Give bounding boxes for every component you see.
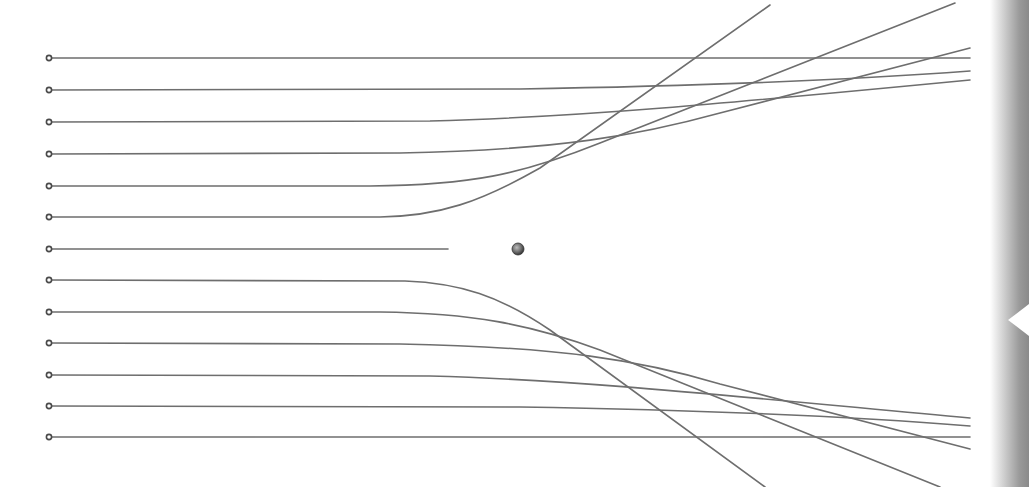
source-point-icon [46,372,51,377]
source-marker-group [46,55,51,439]
trajectory-canvas [0,0,1029,487]
source-point-icon [46,246,51,251]
collapse-arrow-icon[interactable] [1008,304,1029,336]
trajectory-line [49,343,970,449]
source-point-icon [46,55,51,60]
trajectory-line [49,312,940,487]
source-point-icon [46,277,51,282]
nucleus-dot [512,243,524,255]
side-panel-bar[interactable] [990,0,1029,487]
trajectory-line [49,71,970,90]
source-point-icon [46,214,51,219]
trajectory-line [49,406,970,426]
source-point-icon [46,403,51,408]
source-point-icon [46,340,51,345]
trajectory-line [49,48,970,154]
trajectory-line [49,375,970,418]
source-point-icon [46,309,51,314]
trajectory-line [49,280,765,487]
trajectory-line [49,80,970,122]
source-point-icon [46,151,51,156]
scattering-diagram [0,0,1029,487]
source-point-icon [46,183,51,188]
source-point-icon [46,434,51,439]
trajectory-group [49,3,970,487]
source-point-icon [46,119,51,124]
source-point-icon [46,87,51,92]
